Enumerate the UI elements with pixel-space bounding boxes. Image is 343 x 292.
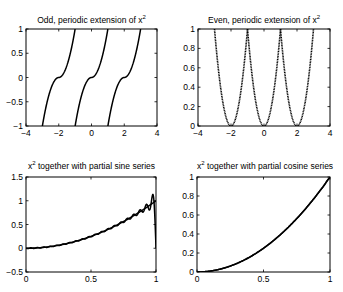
y-tick-label: 0 xyxy=(190,121,195,131)
panel3-plot-area xyxy=(26,195,156,249)
x-tick-label: −2 xyxy=(54,128,64,138)
x-tick-label: 1 xyxy=(154,274,159,284)
y-tick-label: 1 xyxy=(189,172,194,182)
panel1-curve xyxy=(42,29,75,126)
panel4-curve-x2 xyxy=(197,177,330,272)
panel1-plot-area xyxy=(42,29,140,126)
panel1-curve xyxy=(108,29,141,126)
y-tick-label: −0.5 xyxy=(6,267,23,277)
y-tick-label: 0.2 xyxy=(183,102,195,112)
panel2-plot-area xyxy=(215,29,314,126)
y-tick-label: 0.4 xyxy=(183,82,195,92)
panel2-curve xyxy=(281,29,314,126)
panel2-curve xyxy=(215,29,248,126)
y-tick-label: 0.5 xyxy=(11,48,23,58)
y-tick-label: 0 xyxy=(189,267,194,277)
y-tick-label: 0.2 xyxy=(182,248,194,258)
panel2-curve xyxy=(248,29,281,126)
x-tick-label: 0.5 xyxy=(258,274,270,284)
panel4-axes-box xyxy=(197,177,330,272)
x-tick-label: 0 xyxy=(262,128,267,138)
y-tick-label: 1 xyxy=(190,24,195,34)
x-tick-label: 2 xyxy=(295,128,300,138)
x-tick-label: 2 xyxy=(122,128,127,138)
panel4-plot-area xyxy=(197,177,330,272)
x-tick-label: 4 xyxy=(328,128,333,138)
y-tick-label: 1 xyxy=(18,196,23,206)
y-tick-label: 0 xyxy=(18,73,23,83)
y-tick-label: 1.5 xyxy=(11,172,23,182)
y-tick-label: −1 xyxy=(13,121,23,131)
panel2-axes-box xyxy=(198,29,330,126)
y-tick-label: 0.8 xyxy=(182,191,194,201)
x-tick-label: −2 xyxy=(226,128,236,138)
y-tick-label: 0.5 xyxy=(11,220,23,230)
y-tick-label: 0.6 xyxy=(182,210,194,220)
x-tick-label: 4 xyxy=(155,128,160,138)
x-tick-label: 0.5 xyxy=(85,274,97,284)
panel4-curve-cosine-series xyxy=(197,178,330,272)
y-tick-label: 0.6 xyxy=(183,63,195,73)
y-tick-label: 0 xyxy=(18,243,23,253)
x-tick-label: 0 xyxy=(195,274,200,284)
y-tick-label: −0.5 xyxy=(6,97,23,107)
panel3-curve-x2 xyxy=(26,201,156,249)
x-tick-label: 0 xyxy=(24,274,29,284)
x-tick-label: 1 xyxy=(328,274,333,284)
y-tick-label: 0.8 xyxy=(183,43,195,53)
panel3-axes-box xyxy=(26,177,156,272)
figure-canvas: −4−2024−1−0.500.51−4−202400.20.40.60.810… xyxy=(0,0,343,292)
x-tick-label: 0 xyxy=(89,128,94,138)
panel3-curve-sine-series xyxy=(26,195,156,249)
panel1-curve xyxy=(75,29,108,126)
y-tick-label: 1 xyxy=(18,24,23,34)
y-tick-label: 0.4 xyxy=(182,229,194,239)
